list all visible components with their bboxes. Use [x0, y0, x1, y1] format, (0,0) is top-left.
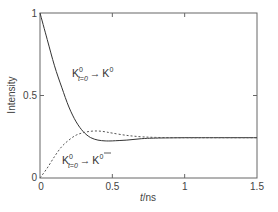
y-tick-label: 1: [31, 8, 37, 19]
chart: 00.511.500.51 t/ns Intensity K0t=0→K0 K0…: [0, 0, 278, 212]
x-tick-label: 0: [38, 181, 44, 192]
x-tick-label: 0.5: [105, 181, 119, 192]
x-axis-label: t/ns: [140, 192, 156, 203]
y-tick-label: 0: [31, 172, 37, 183]
annotation-k0-to-k0: K0t=0→K0: [72, 66, 113, 82]
y-axis-label: Intensity: [6, 76, 17, 113]
annotation-k0-to-k0bar: K0t=0→K0: [62, 153, 103, 169]
y-tick-label: 0.5: [23, 90, 37, 101]
tick-labels: 00.511.500.51: [23, 8, 264, 193]
x-tick-label: 1: [182, 181, 188, 192]
x-tick-label: 1.5: [250, 181, 264, 192]
